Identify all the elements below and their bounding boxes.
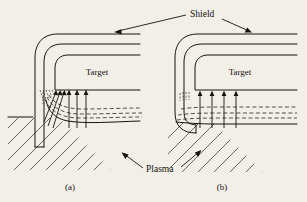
annotation-plasma: Plasma [122,150,202,174]
diagram-canvas: Target (a) [0,0,307,202]
panel-a-plasma-region [0,90,150,202]
panel-a-target-label: Target [86,67,109,77]
panel-a-field-lines [43,92,142,118]
panel-b: Target (b) [130,34,307,202]
panel-b-caption: (b) [217,182,228,192]
panel-b-target-label: Target [229,67,252,77]
shield-label: Shield [190,9,215,19]
panel-b-ion-arrows [198,91,239,129]
figure-container: Target (a) [0,0,307,202]
panel-a: Target (a) [0,34,150,202]
annotation-shield: Shield [114,9,252,34]
panel-a-caption: (a) [65,182,75,192]
plasma-label: Plasma [146,164,174,174]
panel-b-field-lines [177,107,297,120]
panel-b-sheath-boundary [176,122,297,124]
